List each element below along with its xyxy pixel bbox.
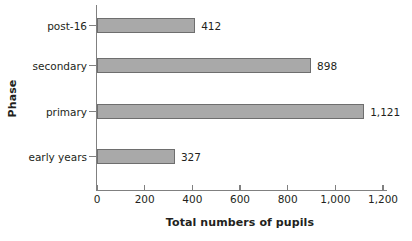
y-axis-tick [89, 111, 97, 112]
bar [97, 58, 311, 73]
x-axis-tick [192, 185, 193, 191]
y-axis-title: Phase [6, 49, 19, 149]
x-axis-tick-label: 800 [278, 193, 298, 205]
x-axis-tick [335, 185, 336, 191]
plot-area: 02004006008001,0001,200 post-16secondary… [0, 0, 412, 241]
bar-value-label: 1,121 [370, 106, 400, 118]
y-axis-tick-label: secondary [33, 60, 87, 72]
x-axis-tick-label: 1,200 [368, 193, 398, 205]
x-axis-tick-label: 0 [94, 193, 101, 205]
y-axis-tick-label: primary [46, 106, 87, 118]
bar-value-label: 898 [317, 60, 337, 72]
x-axis-title: Total numbers of pupils [97, 216, 383, 229]
x-axis-tick-label: 600 [230, 193, 250, 205]
bar [97, 18, 195, 33]
x-axis-tick-label: 200 [135, 193, 155, 205]
bar-value-label: 412 [201, 20, 221, 32]
x-axis-tick [287, 185, 288, 191]
x-axis-line [96, 190, 387, 191]
y-axis-tick [89, 65, 97, 66]
x-axis-tick [96, 185, 97, 191]
x-axis-tick [239, 185, 240, 191]
bar-value-label: 327 [181, 151, 201, 163]
y-axis-tick [89, 156, 97, 157]
bar [97, 104, 364, 119]
y-axis-tick-label: post-16 [47, 20, 87, 32]
x-axis-tick-label: 400 [182, 193, 202, 205]
y-axis-tick [89, 25, 97, 26]
bar [97, 149, 175, 164]
y-axis-tick-label: early years [28, 151, 87, 163]
x-axis-tick-label: 1,000 [320, 193, 350, 205]
bar-chart: 02004006008001,0001,200 post-16secondary… [0, 0, 412, 241]
x-axis-tick [382, 185, 383, 191]
x-axis-tick [144, 185, 145, 191]
